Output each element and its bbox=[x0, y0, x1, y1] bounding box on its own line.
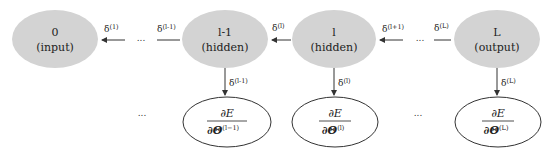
svg-text:0: 0 bbox=[52, 26, 59, 39]
svg-text:δ(1): δ(1) bbox=[104, 23, 119, 34]
backprop-diagram: 0 (input) l-1 (hidden) l (hidden) L (out… bbox=[0, 0, 556, 153]
svg-text:(output): (output) bbox=[474, 41, 519, 54]
svg-text:(hidden): (hidden) bbox=[202, 41, 249, 54]
delta-arrow-l: δ(l) bbox=[272, 22, 291, 40]
svg-text:(hidden): (hidden) bbox=[311, 41, 358, 54]
svg-text:∂E: ∂E bbox=[491, 107, 505, 120]
layer-node-l-1: l-1 (hidden) bbox=[182, 10, 268, 68]
layer-node-L: L (output) bbox=[454, 10, 540, 68]
layer-node-l: l (hidden) bbox=[292, 10, 376, 68]
svg-text:δ(l): δ(l) bbox=[272, 22, 285, 33]
delta-arrow-1: δ(1) bbox=[102, 23, 125, 40]
svg-text:δ(l-1): δ(l-1) bbox=[229, 77, 248, 88]
svg-text:(input): (input) bbox=[36, 41, 74, 54]
svg-text:∂E: ∂E bbox=[328, 107, 342, 120]
gradient-node-L: ∂E ∂Θ(L) bbox=[455, 97, 541, 147]
delta-line-L: δ(L) bbox=[434, 22, 451, 40]
ellipsis-top-left: ... bbox=[137, 33, 146, 43]
svg-text:l: l bbox=[332, 26, 336, 39]
ellipsis-bottom-right: ... bbox=[414, 108, 423, 118]
gradient-node-l-1: ∂E ∂Θ(l−1) bbox=[183, 97, 271, 147]
ellipsis-bottom-left: ... bbox=[138, 108, 147, 118]
svg-text:∂E: ∂E bbox=[220, 107, 234, 120]
svg-text:δ(l+1): δ(l+1) bbox=[382, 23, 405, 34]
svg-text:δ(L): δ(L) bbox=[501, 77, 516, 88]
ellipsis-top-right: ... bbox=[416, 33, 425, 43]
svg-text:l-1: l-1 bbox=[218, 26, 232, 39]
delta-down-l: δ(l) bbox=[334, 68, 351, 95]
delta-down-L: δ(L) bbox=[497, 68, 516, 95]
layer-node-0: 0 (input) bbox=[12, 10, 98, 68]
svg-text:δ(l-1): δ(l-1) bbox=[157, 23, 176, 34]
delta-down-l-1: δ(l-1) bbox=[225, 68, 248, 95]
svg-text:L: L bbox=[493, 26, 501, 39]
svg-text:δ(L): δ(L) bbox=[434, 22, 449, 33]
delta-line-l-1: δ(l-1) bbox=[157, 23, 180, 40]
delta-arrow-l-plus-1: δ(l+1) bbox=[380, 23, 405, 40]
gradient-node-l: ∂E ∂Θ(l) bbox=[292, 97, 378, 147]
svg-text:δ(l): δ(l) bbox=[338, 77, 351, 88]
